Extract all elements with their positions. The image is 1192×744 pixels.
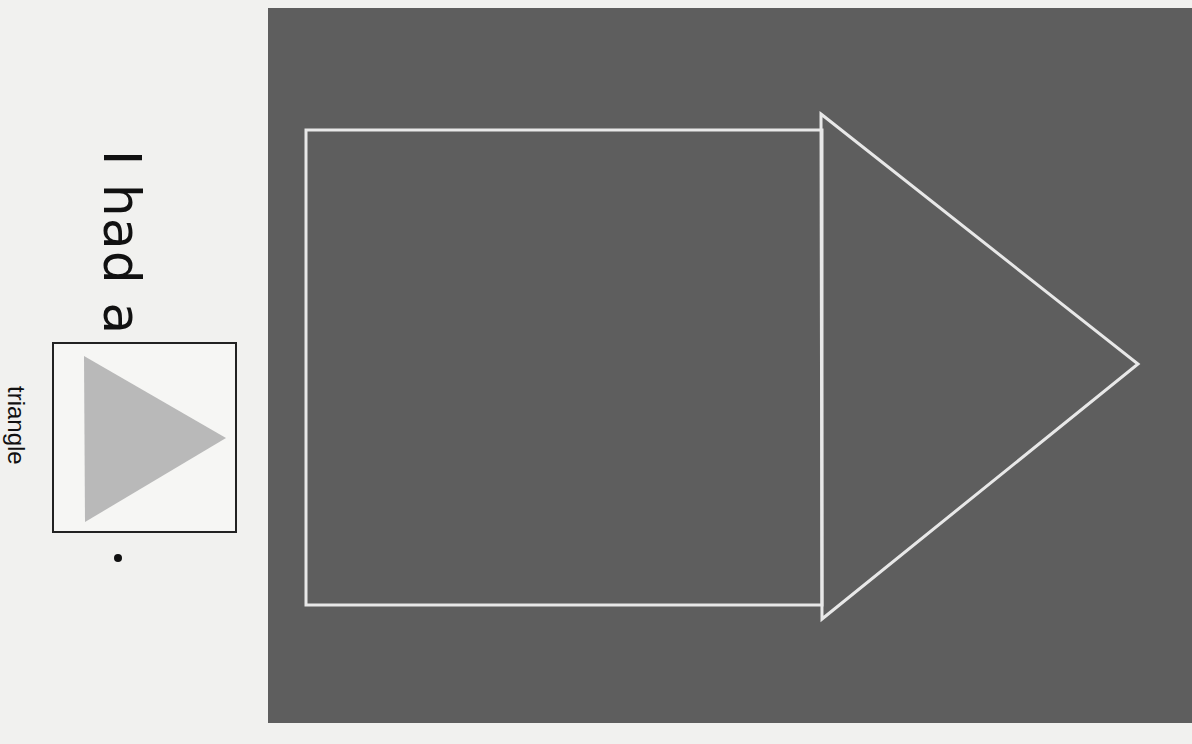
triangle-outline	[821, 114, 1138, 619]
picture-card-label: triangle	[2, 386, 30, 465]
square-outline	[306, 130, 822, 605]
sentence-period	[114, 554, 122, 562]
drawing-panel	[268, 8, 1192, 723]
square-and-triangle-drawing	[268, 8, 1192, 723]
picture-card	[52, 342, 237, 533]
triangle-icon	[54, 344, 239, 535]
sentence-text: I had a	[92, 150, 152, 335]
